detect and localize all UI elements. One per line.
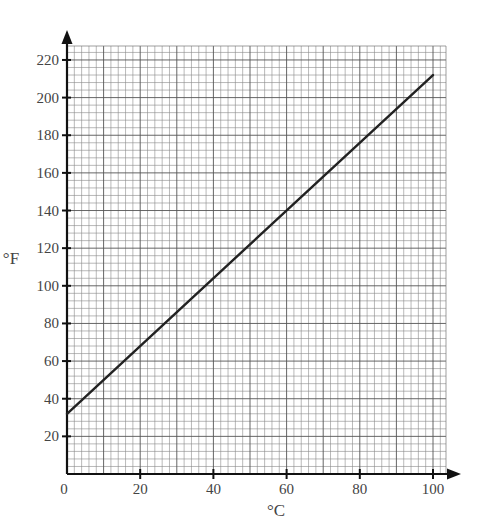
y-tick-label: 60: [44, 353, 59, 369]
x-tick-label: 100: [422, 481, 445, 497]
y-tick-label: 140: [37, 203, 60, 219]
y-tick-label: 160: [37, 165, 60, 181]
y-tick-label: 100: [37, 278, 60, 294]
y-axis-label: °F: [3, 249, 19, 268]
grid-minor: [67, 46, 446, 474]
x-tick-label: 80: [352, 481, 367, 497]
x-tick-label: 20: [133, 481, 148, 497]
y-tick-label: 80: [44, 315, 59, 331]
y-tick-label: 40: [44, 391, 59, 407]
x-tick-label: 60: [279, 481, 294, 497]
chart: 0204060801002040608010012014016018020022…: [0, 0, 481, 529]
x-axis-label: °C: [267, 501, 285, 520]
x-tick-label: 40: [206, 481, 221, 497]
y-tick-label: 120: [37, 240, 60, 256]
x-axis-arrow-icon: [447, 469, 461, 480]
y-tick-label: 20: [44, 428, 59, 444]
y-tick-label: 180: [37, 127, 60, 143]
ticks: 0204060801002040608010012014016018020022…: [37, 52, 445, 497]
y-axis-arrow-icon: [62, 30, 73, 44]
y-tick-label: 220: [37, 52, 60, 68]
y-tick-label: 200: [37, 90, 60, 106]
x-tick-label: 0: [60, 481, 68, 497]
